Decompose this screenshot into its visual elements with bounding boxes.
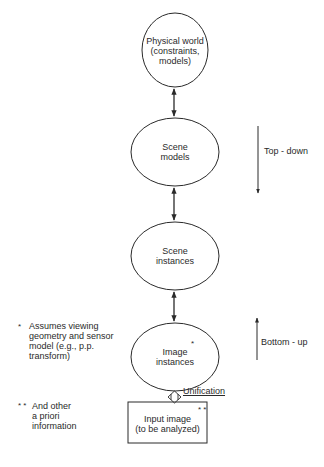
image-instances-marker: * [191,340,194,348]
footnote-double-star-marker: * * [18,402,26,410]
footnote-single-star-marker: * [18,323,21,331]
node-scene-instances-label: Scene instances [140,246,210,266]
diagram-canvas [0,0,324,467]
edge-unification [168,391,181,403]
footnote-double-star: And other a priori information [32,401,112,431]
top-down-label: Top - down [264,146,308,156]
unification-label: Unification [183,386,225,396]
node-image-instances-label: Image instances [140,347,210,367]
node-physical-world-label: Physical world (constraints, models) [140,36,210,66]
node-input-image-label: Input image (to be analyzed) [130,414,205,434]
bottom-up-label: Bottom - up [261,337,308,347]
input-image-marker: * * [198,406,206,414]
node-scene-models-label: Scene models [140,142,210,162]
footnote-single-star: Assumes viewing geometry and sensor mode… [29,321,129,361]
